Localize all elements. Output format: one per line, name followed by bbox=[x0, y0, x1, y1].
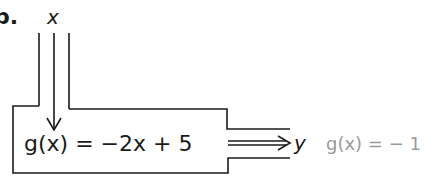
problem-label: b. bbox=[0, 4, 18, 29]
input-variable: x bbox=[46, 5, 59, 29]
output-variable: y bbox=[293, 131, 307, 155]
function-machine-diagram: b. x g(x) = −2x + 5 y g(x) = − 1 bbox=[0, 0, 439, 177]
output-arrow-head-icon bbox=[278, 136, 290, 150]
function-machine-svg: b. x g(x) = −2x + 5 y g(x) = − 1 bbox=[0, 0, 439, 177]
machine-box-upper-outline bbox=[69, 109, 290, 129]
answer-text: g(x) = − 1 bbox=[326, 133, 421, 154]
function-expression: g(x) = −2x + 5 bbox=[24, 131, 192, 156]
